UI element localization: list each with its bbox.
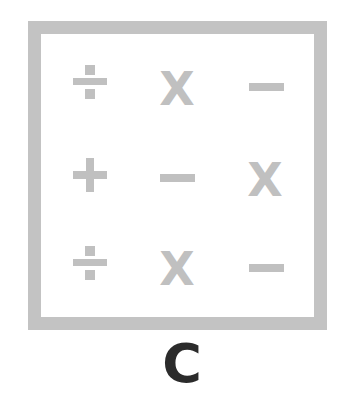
minus-icon [147,153,207,203]
times-icon: X [147,244,207,294]
minus-icon [236,243,296,293]
divide-icon [60,57,120,107]
option-label: C [150,336,214,392]
times-icon: X [235,155,295,205]
divide-icon [60,238,120,288]
minus-icon [236,62,296,112]
times-icon: X [147,64,207,114]
plus-icon [60,150,120,200]
